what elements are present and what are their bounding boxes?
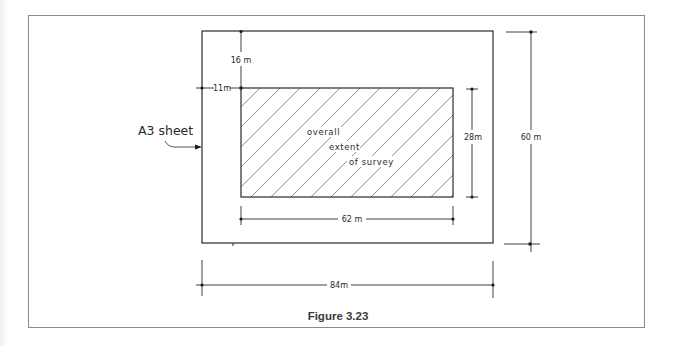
survey-extent-diagram: overall extent of survey 16 m 11m A3 she… (0, 0, 676, 346)
dim-node (200, 283, 203, 286)
dim-top-margin-label: 16 m (231, 56, 252, 65)
a3-sheet-label: A3 sheet (138, 123, 193, 138)
a3-leader-line (165, 141, 196, 147)
dim-node (529, 30, 532, 33)
dim-node (451, 217, 454, 220)
dim-node (200, 86, 203, 89)
hatch-label-overall: overall (307, 127, 340, 137)
dim-sheet-width (196, 260, 493, 298)
hatch-label-extent: extent (329, 142, 360, 152)
dim-survey-height (466, 89, 478, 197)
dim-survey-height-label: 28m (464, 133, 482, 142)
hatch-label-of-survey: of survey (349, 157, 394, 167)
dim-node (491, 283, 494, 286)
dim-node (239, 30, 242, 33)
arrow-head-icon (195, 145, 202, 150)
dim-node (528, 242, 531, 245)
dim-node (470, 87, 473, 90)
dim-node (239, 217, 242, 220)
figure-caption: Figure 3.23 (0, 310, 676, 322)
dim-left-margin-label: 11m (213, 84, 231, 93)
dim-sheet-height-label: 60 m (521, 133, 542, 142)
dim-sheet-height (504, 32, 540, 252)
dim-node (470, 195, 473, 198)
dim-survey-width-label: 62 m (342, 215, 363, 224)
dim-sheet-width-label: 84m (330, 281, 348, 290)
